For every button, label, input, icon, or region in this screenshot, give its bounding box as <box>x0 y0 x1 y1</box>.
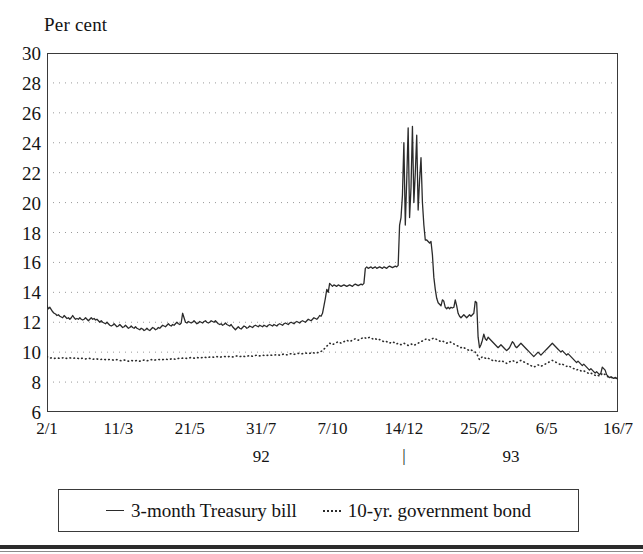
y-tick-label: 8 <box>7 373 41 392</box>
y-tick-label: 30 <box>7 44 41 63</box>
y-tick-label: 10 <box>7 343 41 362</box>
legend-label-government-bond: 10-yr. government bond <box>348 500 531 522</box>
footer-rule-thin <box>0 551 643 552</box>
figure-container: Per cent 302826242220181614121086 2/111/… <box>0 0 643 554</box>
chart-canvas <box>47 53 618 412</box>
legend-label-treasury-bill: 3-month Treasury bill <box>131 500 297 522</box>
y-tick-label: 22 <box>7 163 41 182</box>
x-tick-label: 31/7 <box>246 420 276 437</box>
x-tick-label: 7/10 <box>317 420 347 437</box>
legend-item-treasury-bill[interactable]: 3-month Treasury bill <box>106 500 297 522</box>
x-axis-year-label: 92 <box>253 448 270 465</box>
series-line-1 <box>47 126 618 379</box>
x-tick-label: 21/5 <box>175 420 205 437</box>
x-tick-label: 16/7 <box>603 420 633 437</box>
year-separator-tick: | <box>402 447 405 464</box>
solid-line-key-icon <box>106 510 124 511</box>
footer-rule <box>0 545 643 549</box>
y-axis-title: Per cent <box>44 14 107 36</box>
x-tick-label: 25/2 <box>460 420 490 437</box>
y-tick-label: 14 <box>7 283 41 302</box>
x-tick-label: 2/1 <box>36 420 58 437</box>
series-layer <box>47 126 618 379</box>
y-tick-label: 18 <box>7 223 41 242</box>
chart-legend: 3-month Treasury bill 10-yr. government … <box>58 489 579 532</box>
y-tick-label: 26 <box>7 103 41 122</box>
gridlines <box>47 83 618 382</box>
y-tick-label: 20 <box>7 193 41 212</box>
x-tick-label: 14/12 <box>385 420 424 437</box>
x-axis-year-label: 93 <box>502 448 519 465</box>
dotted-line-key-icon <box>323 510 341 512</box>
x-tick-label: 6/5 <box>536 420 558 437</box>
legend-item-government-bond[interactable]: 10-yr. government bond <box>323 500 531 522</box>
series-line-2 <box>47 337 618 378</box>
plot-area <box>47 53 618 412</box>
y-tick-label: 28 <box>7 73 41 92</box>
plot-border <box>48 54 618 412</box>
y-tick-label: 24 <box>7 133 41 152</box>
x-tick-label: 11/3 <box>104 420 134 437</box>
y-tick-label: 12 <box>7 313 41 332</box>
y-tick-label: 16 <box>7 253 41 272</box>
